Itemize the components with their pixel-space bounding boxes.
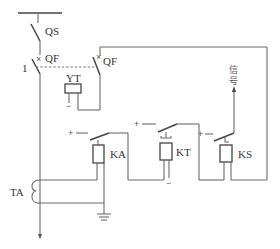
qf-main-label: QF (45, 52, 59, 64)
signal-label-line2: 号 (229, 76, 238, 86)
signal-arrow-icon (232, 86, 236, 92)
busbar (18, 13, 62, 23)
ks-plus-sign: + (198, 129, 203, 139)
ground-icon (97, 210, 111, 220)
ks-signal-relay: + (198, 86, 236, 180)
ka-label: KA (110, 148, 126, 160)
qf-main-breaker-symbol: × (32, 54, 42, 239)
kt-minus-sign: − (166, 178, 171, 188)
qs-disconnector-symbol (31, 24, 40, 55)
signal-label-line1: 信 (229, 64, 238, 75)
breaker-x-icon: × (36, 54, 41, 64)
qs-label: QS (45, 25, 59, 37)
ta-label: TA (10, 186, 24, 198)
ka-current-relay: + (68, 128, 128, 210)
ks-label: KS (238, 148, 252, 160)
qf-aux-label: QF (103, 55, 117, 67)
load-arrow-icon (38, 234, 42, 239)
kt-label: KT (176, 146, 191, 158)
kt-plus-sign: + (134, 119, 139, 129)
yt-label: YT (66, 72, 81, 84)
ka-plus-sign: + (68, 128, 73, 138)
ta-current-transformer (32, 180, 104, 203)
yt-trip-coil: − (65, 84, 81, 111)
yt-minus-sign: − (66, 101, 71, 111)
protection-circuit-diagram: QS × QF 1 × QF − YT + (0, 0, 280, 249)
node-1-label: 1 (22, 62, 28, 74)
